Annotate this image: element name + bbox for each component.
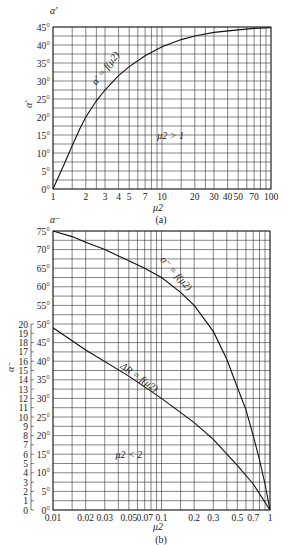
chart-a-y-ticks: 0°5°10°15°20°25°30°35°40°45°	[37, 23, 51, 195]
y-tick-label: 70°	[37, 245, 51, 255]
x-tick-label: 0.7	[247, 513, 259, 523]
x-tick-label: 0.03	[96, 513, 113, 523]
chart-b-x-label: μ2	[152, 521, 163, 532]
y-tick-label: 10°	[37, 149, 51, 159]
chart-b-secondary-y-ticks: 01234567891011121314151617181920	[19, 320, 35, 516]
chart-b-annotations: α⁻ = f(μ2)ΔR = f(μ2)μ2 < 2	[114, 254, 195, 460]
y-tick-label: 50°	[37, 320, 51, 330]
secondary-y-tick-label: 17	[19, 347, 29, 357]
x-tick-label: 30	[209, 192, 219, 202]
secondary-y-tick-label: 18	[19, 338, 29, 348]
y-tick-label: 5°	[41, 487, 50, 497]
secondary-y-tick-label: 9	[23, 422, 28, 432]
secondary-y-tick-label: 12	[19, 394, 29, 404]
chart-a: 0°5°10°15°20°25°30°35°40°45° 12345710203…	[23, 5, 278, 226]
y-tick-label: 45°	[37, 23, 51, 33]
secondary-y-tick-label: 2	[23, 487, 28, 497]
secondary-y-tick-label: 6	[23, 450, 28, 460]
x-tick-label: 0.5	[231, 513, 243, 523]
secondary-y-tick-label: 8	[23, 431, 28, 441]
y-tick-label: 10°	[37, 468, 51, 478]
y-tick-label: 20°	[37, 431, 51, 441]
x-tick-label: 5	[127, 192, 132, 202]
x-tick-label: 7	[143, 192, 148, 202]
secondary-y-tick-label: 5	[23, 459, 28, 469]
y-tick-label: 30°	[37, 77, 51, 87]
secondary-y-tick-label: 10	[19, 413, 29, 423]
secondary-y-tick-label: 15	[19, 366, 29, 376]
secondary-y-tick-label: 19	[19, 329, 29, 339]
x-tick-label: 50	[233, 192, 243, 202]
x-tick-label: 1	[268, 513, 273, 523]
x-tick-label: 100	[264, 192, 279, 202]
secondary-y-tick-label: 7	[23, 440, 28, 450]
chart-b-caption: (b)	[155, 534, 167, 545]
chart-b-y-ticks: 0°5°10°15°20°25°30°35°40°45°50°55°60°65°…	[37, 227, 51, 516]
y-tick-label: 35°	[37, 59, 51, 69]
x-tick-label: 1	[51, 192, 56, 202]
x-tick-label: 2	[83, 192, 88, 202]
secondary-y-tick-label: 20	[19, 320, 29, 330]
y-tick-label: 15°	[37, 450, 51, 460]
y-tick-label: 55°	[37, 301, 51, 311]
y-tick-label: 40°	[37, 41, 51, 51]
chart-a-y-label: α'	[23, 100, 34, 108]
chart-b-y-label: α⁻	[5, 361, 16, 372]
chart-a-y-top-label: α'	[50, 5, 58, 16]
x-tick-label: 20	[190, 192, 200, 202]
curve-annotation: ΔR = f(μ2)	[117, 359, 161, 395]
secondary-y-tick-label: 13	[19, 385, 29, 395]
secondary-y-tick-label: 3	[23, 478, 28, 488]
x-tick-label: 4	[116, 192, 121, 202]
secondary-y-tick-label: 0	[23, 506, 28, 516]
y-tick-label: 60°	[37, 282, 51, 292]
x-tick-label: 40	[223, 192, 233, 202]
x-tick-label: 0.2	[188, 513, 200, 523]
chart-a-x-ticks: 123457102030405070100	[51, 192, 279, 202]
y-tick-label: 45°	[37, 338, 51, 348]
x-tick-label: 0.01	[45, 513, 62, 523]
x-tick-label: 10	[157, 192, 167, 202]
secondary-y-tick-label: 4	[23, 468, 28, 478]
y-tick-label: 0°	[41, 185, 50, 195]
y-tick-label: 30°	[37, 394, 51, 404]
x-tick-label: 0.02	[77, 513, 94, 523]
curve-annotation: α' = f(μ2)	[89, 49, 123, 87]
y-tick-label: 15°	[37, 131, 51, 141]
chart-b-grid	[53, 231, 270, 510]
y-tick-label: 75°	[37, 227, 51, 237]
chart-a-annotations: α' = f(μ2)μ2 > 1	[89, 49, 184, 141]
chart-b-y-top-label: α⁻	[50, 214, 61, 225]
y-tick-label: 35°	[37, 375, 51, 385]
secondary-y-tick-label: 14	[19, 375, 29, 385]
chart-a-grid	[53, 27, 271, 189]
x-tick-label: 70	[249, 192, 259, 202]
curve-annotation: μ2 > 1	[156, 130, 184, 141]
y-tick-label: 40°	[37, 357, 51, 367]
chart-a-caption: (a)	[155, 214, 166, 226]
y-tick-label: 65°	[37, 264, 51, 274]
chart-b: 0°5°10°15°20°25°30°35°40°45°50°55°60°65°…	[5, 214, 273, 545]
x-tick-label: 3	[103, 192, 108, 202]
secondary-y-tick-label: 11	[19, 403, 28, 413]
curve-annotation: μ2 < 2	[114, 449, 142, 460]
curve-annotation: α⁻ = f(μ2)	[158, 254, 195, 294]
x-tick-label: 0.07	[136, 513, 153, 523]
secondary-y-tick-label: 1	[23, 496, 28, 506]
y-tick-label: 25°	[37, 413, 51, 423]
y-tick-label: 5°	[41, 167, 50, 177]
y-tick-label: 20°	[37, 113, 51, 123]
x-tick-label: 0.3	[207, 513, 219, 523]
y-tick-label: 25°	[37, 95, 51, 105]
chart-a-x-label: μ2	[152, 202, 163, 213]
secondary-y-tick-label: 16	[19, 357, 29, 367]
figure: 0°5°10°15°20°25°30°35°40°45° 12345710203…	[0, 0, 286, 545]
x-tick-label: 0.05	[121, 513, 138, 523]
